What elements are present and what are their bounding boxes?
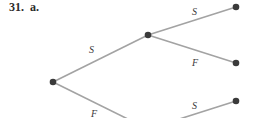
edge-root-to-S bbox=[53, 35, 148, 82]
node-root bbox=[50, 79, 57, 86]
tree-diagram: S F S F S bbox=[0, 0, 258, 118]
edge-root-to-F bbox=[53, 82, 148, 118]
node-leaf-SS bbox=[233, 4, 240, 11]
label-root-to-F: F bbox=[90, 108, 98, 118]
label-root-to-S: S bbox=[89, 44, 94, 55]
label-F-to-S: S bbox=[192, 100, 197, 111]
node-leaf-FS bbox=[233, 98, 240, 105]
label-S-to-F: F bbox=[191, 57, 199, 68]
node-mid-S bbox=[145, 32, 152, 39]
label-S-to-S: S bbox=[192, 6, 197, 17]
node-leaf-SF bbox=[233, 60, 240, 67]
